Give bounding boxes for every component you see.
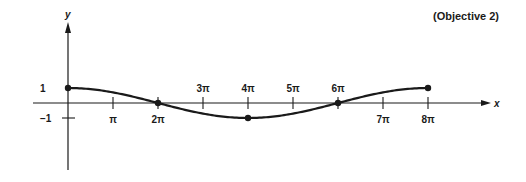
- x-tick-label: 6π: [331, 83, 345, 94]
- x-tick-label: 4π: [241, 83, 255, 94]
- y-axis-label: y: [64, 9, 71, 20]
- data-point: [335, 100, 341, 106]
- x-axis-arrow-icon: [481, 100, 491, 106]
- x-tick-label: 3π: [196, 83, 210, 94]
- x-tick-label: π: [109, 114, 117, 125]
- x-tick-label: 2π: [151, 114, 165, 125]
- cosine-graph: xy π2π3π4π5π6π7π8π1−1: [0, 0, 526, 182]
- data-point: [155, 100, 161, 106]
- x-tick-label: 8π: [421, 114, 435, 125]
- data-point: [425, 85, 431, 91]
- data-point: [65, 85, 71, 91]
- objective-annotation: (Objective 2): [433, 10, 499, 22]
- x-tick-label: 5π: [286, 83, 300, 94]
- data-point: [245, 115, 251, 121]
- y-axis-arrow-icon: [65, 22, 71, 33]
- x-axis-label: x: [493, 98, 500, 109]
- y-tick-label: 1: [40, 83, 46, 94]
- y-tick-label: −1: [40, 113, 52, 124]
- x-tick-label: 7π: [376, 114, 390, 125]
